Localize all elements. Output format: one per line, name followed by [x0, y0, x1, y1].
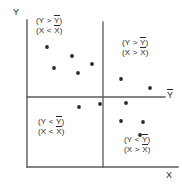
quadrant-label-line-x: (X > X) — [122, 48, 149, 58]
y-mean-line-label: Y — [167, 90, 173, 100]
scatter-point — [90, 62, 94, 66]
scatter-point — [52, 66, 56, 70]
scatter-point — [76, 71, 80, 75]
quadrant-label-top-right: (Y > Y) (X > X) — [122, 38, 149, 58]
plot-canvas — [0, 0, 182, 184]
scatter-point — [141, 120, 145, 124]
quadrant-label-line-x: (X < X) — [38, 127, 65, 137]
quadrant-label-top-left: (Y > Y) (X < X) — [36, 16, 63, 36]
quadrant-label-bottom-right: (Y < Y) (X > X) — [124, 135, 151, 155]
scatter-point — [98, 102, 102, 106]
scatter-point — [148, 86, 152, 90]
quadrant-scatter-figure: (Y > Y) (X < X) (Y > Y) (X > X) (Y < Y) … — [0, 0, 182, 184]
quadrant-label-bottom-left: (Y < Y) (X < X) — [38, 117, 65, 137]
scatter-point — [119, 77, 123, 81]
quadrant-label-line-x: (X < X) — [36, 26, 63, 36]
scatter-point — [45, 45, 49, 49]
y-axis-label: Y — [13, 7, 19, 17]
quadrant-label-line-x: (X > X) — [124, 145, 151, 155]
scatter-point — [70, 54, 74, 58]
scatter-point — [124, 101, 128, 105]
x-axis-label: X — [166, 170, 172, 180]
scatter-point — [119, 119, 123, 123]
y-mean-label-text: Y — [167, 90, 173, 100]
scatter-point — [77, 105, 81, 109]
